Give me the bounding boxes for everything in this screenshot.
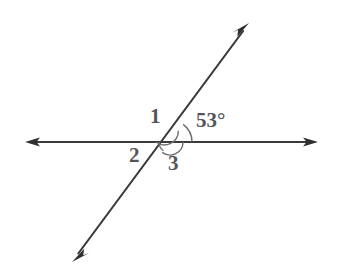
horizontal-line [25,137,318,146]
angle-label-3: 3 [168,153,179,174]
geometry-figure [0,0,338,275]
arc-angle-53 [183,124,192,142]
angle-measure-label: 53° [196,110,225,131]
angle-label-1: 1 [150,106,161,127]
diagram-canvas: 1 2 3 53° [0,0,338,275]
arc-angle-2 [159,142,163,151]
angle-label-2: 2 [129,145,140,166]
